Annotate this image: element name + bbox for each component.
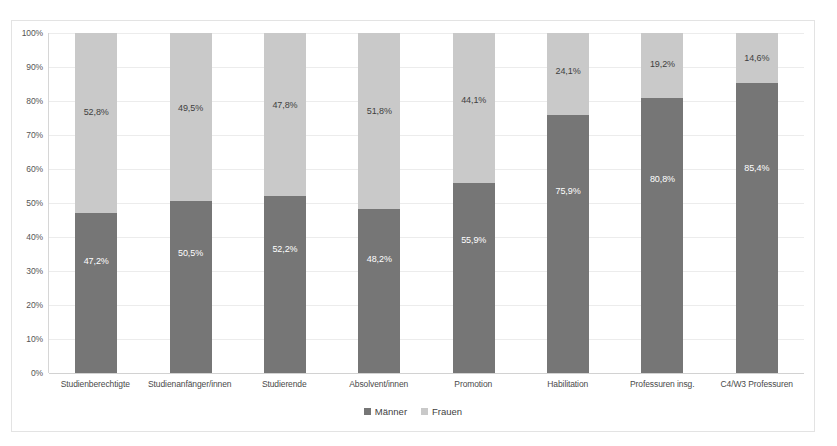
legend-swatch-icon <box>421 408 428 415</box>
bar-segment-frauen[interactable]: 49,5% <box>170 33 212 201</box>
y-axis-tick-label: 90% <box>26 62 43 72</box>
bar-value-label: 19,2% <box>650 60 675 69</box>
bar-segment-maenner[interactable]: 48,2% <box>358 209 400 373</box>
y-axis-tick-label: 10% <box>26 334 43 344</box>
bar-segment-maenner[interactable]: 50,5% <box>170 201 212 373</box>
x-axis-category-label: Professuren insg. <box>615 379 710 397</box>
x-axis-category-label: Studienberechtigte <box>48 379 143 397</box>
y-axis-tick-label: 100% <box>22 28 43 38</box>
chart-frame: 100%90%80%70%60%50%40%30%20%10%0% 52,8%4… <box>11 20 815 432</box>
stacked-bar[interactable]: 47,8%52,2% <box>264 33 306 373</box>
bar-value-label: 47,2% <box>84 257 109 266</box>
x-axis-category-label: Promotion <box>426 379 521 397</box>
legend-item[interactable]: Frauen <box>421 406 462 417</box>
bar-segment-maenner[interactable]: 80,8% <box>641 98 683 373</box>
bar-segment-frauen[interactable]: 51,8% <box>358 33 400 209</box>
bar-value-label: 14,6% <box>744 54 769 63</box>
bar-segment-maenner[interactable]: 52,2% <box>264 196 306 373</box>
chart-legend: MännerFrauen <box>12 406 814 417</box>
bar-segment-maenner[interactable]: 75,9% <box>547 115 589 373</box>
y-axis-tick-label: 70% <box>26 130 43 140</box>
bar-slot: 19,2%80,8% <box>615 33 709 373</box>
stacked-bar[interactable]: 49,5%50,5% <box>170 33 212 373</box>
legend-label: Frauen <box>432 406 462 417</box>
bar-segment-frauen[interactable]: 19,2% <box>641 33 683 98</box>
bar-slot: 44,1%55,9% <box>427 33 521 373</box>
bar-group: 52,8%47,2%49,5%50,5%47,8%52,2%51,8%48,2%… <box>49 33 804 373</box>
y-axis-tick-label: 40% <box>26 232 43 242</box>
bar-value-label: 47,8% <box>272 101 297 110</box>
bar-value-label: 44,1% <box>461 96 486 105</box>
y-axis-tick-label: 60% <box>26 164 43 174</box>
bar-value-label: 75,9% <box>556 187 581 196</box>
y-axis-tick-label: 30% <box>26 266 43 276</box>
bar-value-label: 51,8% <box>367 107 392 116</box>
stacked-bar[interactable]: 14,6%85,4% <box>736 33 778 373</box>
legend-item[interactable]: Männer <box>364 406 407 417</box>
bar-segment-maenner[interactable]: 55,9% <box>453 183 495 373</box>
bar-slot: 49,5%50,5% <box>143 33 237 373</box>
bar-segment-maenner[interactable]: 47,2% <box>75 213 117 373</box>
x-axis-labels: StudienberechtigteStudienanfänger/innenS… <box>48 379 804 397</box>
bar-segment-frauen[interactable]: 14,6% <box>736 33 778 83</box>
stacked-bar[interactable]: 51,8%48,2% <box>358 33 400 373</box>
bar-segment-maenner[interactable]: 85,4% <box>736 83 778 373</box>
bar-value-label: 52,8% <box>84 108 109 117</box>
plot-area: 100%90%80%70%60%50%40%30%20%10%0% 52,8%4… <box>48 33 804 373</box>
stacked-bar[interactable]: 52,8%47,2% <box>75 33 117 373</box>
bar-value-label: 50,5% <box>178 249 203 258</box>
stacked-bar[interactable]: 44,1%55,9% <box>453 33 495 373</box>
bar-slot: 52,8%47,2% <box>49 33 143 373</box>
x-axis-category-label: Studienanfänger/innen <box>143 379 238 397</box>
bar-segment-frauen[interactable]: 24,1% <box>547 33 589 115</box>
y-axis-tick-label: 80% <box>26 96 43 106</box>
y-axis-tick-label: 20% <box>26 300 43 310</box>
x-axis-category-label: Habilitation <box>521 379 616 397</box>
bar-value-label: 52,2% <box>272 245 297 254</box>
bar-slot: 24,1%75,9% <box>521 33 615 373</box>
bar-segment-frauen[interactable]: 52,8% <box>75 33 117 213</box>
bar-slot: 47,8%52,2% <box>238 33 332 373</box>
y-axis-tick-label: 50% <box>26 198 43 208</box>
x-axis-category-label: Studierende <box>237 379 332 397</box>
bar-value-label: 48,2% <box>367 255 392 264</box>
x-axis-category-label: Absolvent/innen <box>332 379 427 397</box>
bar-slot: 14,6%85,4% <box>710 33 804 373</box>
bar-value-label: 55,9% <box>461 236 486 245</box>
bar-slot: 51,8%48,2% <box>332 33 426 373</box>
y-axis-tick-label: 0% <box>31 368 43 378</box>
legend-swatch-icon <box>364 408 371 415</box>
bar-value-label: 49,5% <box>178 104 203 113</box>
bar-value-label: 24,1% <box>556 67 581 76</box>
gridline-0: 0% <box>49 373 804 374</box>
stacked-bar[interactable]: 19,2%80,8% <box>641 33 683 373</box>
legend-label: Männer <box>375 406 407 417</box>
bar-value-label: 80,8% <box>650 175 675 184</box>
stacked-bar[interactable]: 24,1%75,9% <box>547 33 589 373</box>
bar-segment-frauen[interactable]: 44,1% <box>453 33 495 183</box>
bar-value-label: 85,4% <box>744 164 769 173</box>
x-axis-category-label: C4/W3 Professuren <box>710 379 805 397</box>
bar-segment-frauen[interactable]: 47,8% <box>264 33 306 196</box>
